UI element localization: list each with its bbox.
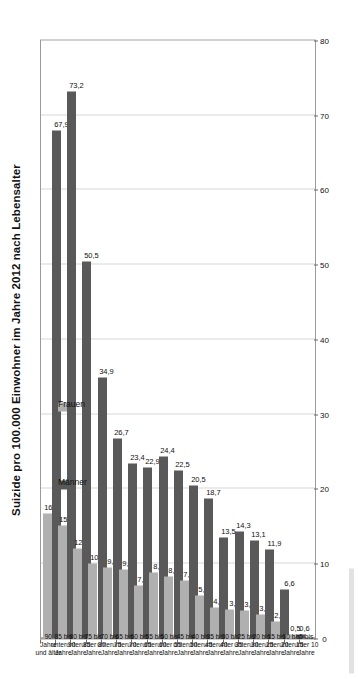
bar-group: 5,818,7 xyxy=(193,40,208,638)
bar-frauen xyxy=(43,513,52,638)
bar-frauen xyxy=(149,572,158,638)
bar-frauen xyxy=(103,567,112,638)
bar-frauen xyxy=(119,569,128,638)
footer-rule xyxy=(349,568,354,673)
bar-group: 9,526,7 xyxy=(102,40,117,638)
bar-group: 8,322,5 xyxy=(163,40,178,638)
bar-group: 3,914,3 xyxy=(224,40,239,638)
chart-title: Suizide pro 100.000 Einwohner im Jahre 2… xyxy=(10,0,22,679)
chart-figure: Suizide pro 100.000 Einwohner im Jahre 2… xyxy=(0,0,358,679)
bar-frauen xyxy=(134,585,143,638)
bar-group xyxy=(300,40,315,638)
bar-group: 0,50,6 xyxy=(285,40,300,638)
bar-group: 10,134,9 xyxy=(87,40,102,638)
bar-group: 3,211,9 xyxy=(254,40,269,638)
value-tick-label: 30 xyxy=(315,410,335,419)
bar-group: 4,213,5 xyxy=(208,40,223,638)
bar-group: 12,050,5 xyxy=(71,40,86,638)
bar-frauen xyxy=(180,580,189,638)
value-tick-label: 70 xyxy=(315,111,335,120)
bar-group: 16,767,9 xyxy=(41,40,56,638)
bar-group: 8,824,4 xyxy=(148,40,163,638)
bar-frauen xyxy=(58,525,67,638)
legend-frauen-label: Frauen xyxy=(58,398,85,408)
legend-maenner-label: Männer xyxy=(58,476,87,486)
value-tick-label: 50 xyxy=(315,261,335,270)
bar-frauen xyxy=(73,548,82,638)
bar-group: 15,173,2 xyxy=(56,40,71,638)
value-tick-label: 40 xyxy=(315,336,335,345)
value-tick-label: 60 xyxy=(315,186,335,195)
bar-group: 3,713,1 xyxy=(239,40,254,638)
value-tick-label: 20 xyxy=(315,485,335,494)
bar-group: 9,223,4 xyxy=(117,40,132,638)
plot-area: 16,767,915,173,212,050,510,134,99,526,79… xyxy=(40,39,316,639)
bar-frauen xyxy=(164,576,173,638)
bar-frauen xyxy=(195,595,204,638)
value-tick-label: 80 xyxy=(315,37,335,46)
bar-group: 2,36,6 xyxy=(269,40,284,638)
bar-group: 7,720,5 xyxy=(178,40,193,638)
category-label: 5 bis unter 10 Jahre xyxy=(275,633,339,658)
value-tick-label: 10 xyxy=(315,560,335,569)
bar-group: 7,122,9 xyxy=(132,40,147,638)
bar-frauen xyxy=(88,563,97,638)
